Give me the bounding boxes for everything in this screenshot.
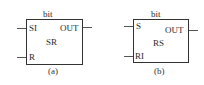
caption-b: (b) (154, 67, 165, 76)
out-output-line (189, 30, 198, 31)
bit-label: bit (43, 10, 53, 19)
sr-block-name: SR (46, 38, 57, 47)
out-output-label: OUT (165, 26, 184, 35)
rs-block-name: RS (153, 39, 164, 48)
r-input-label: R (29, 53, 35, 62)
bit-label: bit (151, 10, 161, 19)
caption-a: (a) (48, 67, 58, 76)
s-input-line (124, 26, 133, 27)
out-output-label: OUT (60, 24, 79, 33)
out-output-line (83, 27, 92, 28)
ri-input-line (124, 56, 133, 57)
si-input-line (17, 28, 26, 29)
s-input-label: S (136, 22, 141, 31)
r-input-line (17, 57, 26, 58)
ri-input-label: RI (135, 52, 144, 61)
si-input-label: SI (29, 24, 37, 33)
